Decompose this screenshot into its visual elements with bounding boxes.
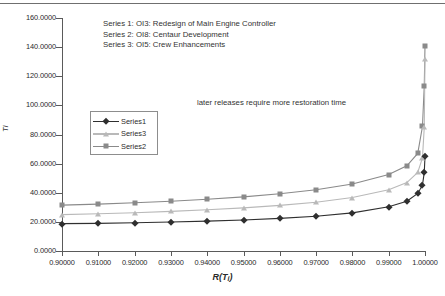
triangle-marker [103,131,109,136]
triangle-marker [386,187,392,192]
square-marker [277,191,282,196]
triangle-marker [422,56,428,61]
triangle-marker [349,195,355,200]
top-divider-rule [0,3,445,4]
x-tick-label: 0.92000 [122,258,147,267]
triangle-marker [404,180,410,185]
square-marker [205,197,210,202]
caption-line-3: Series 3: OI5: Crew Enhancements [103,40,276,51]
x-tick-label: 0.98000 [340,258,365,267]
x-tick [135,251,136,256]
y-tick-label: 0.0000 [0,246,56,255]
y-tick-label: 120.0000 [0,71,56,80]
x-tick-label: 0.97000 [303,258,328,267]
x-tick-label: 1.00000 [412,258,437,267]
x-tick [280,251,281,256]
x-tick-label: 0.94000 [195,258,220,267]
triangle-marker [415,170,421,175]
triangle-marker [241,205,247,210]
y-tick-label: 40.0000 [0,188,56,197]
x-tick-label: 0.99000 [376,258,401,267]
x-tick-label: 0.96000 [267,258,292,267]
legend-line-swatch [93,117,119,125]
legend-label: Series3 [121,129,146,138]
legend-item-series3[interactable]: Series3 [93,128,155,141]
square-marker [168,199,173,204]
x-axis-title-main: R(T [213,272,228,282]
x-tick [207,251,208,256]
x-tick [389,251,390,256]
x-tick [244,251,245,256]
chart-note-annotation: later releases require more restoration … [197,98,346,107]
x-tick [316,251,317,256]
triangle-marker [204,207,210,212]
legend-item-series2[interactable]: Series2 [93,140,155,153]
square-marker [314,187,319,192]
y-tick-label: 140.0000 [0,42,56,51]
x-tick-label: 0.90000 [49,258,74,267]
x-axis-title: R(Ti) [0,272,445,282]
x-axis-title-close: ) [229,272,232,282]
square-marker [422,83,427,88]
x-tick [98,251,99,256]
triangle-marker [421,125,427,130]
series-caption-block: Series 1: OI3: Redesign of Main Engine C… [103,19,276,51]
legend-item-series1[interactable]: Series1 [93,115,155,128]
triangle-marker [313,200,319,205]
legend-line-swatch [93,130,119,138]
diamond-marker [103,118,109,124]
square-marker [423,43,428,48]
y-tick-label: 20.0000 [0,217,56,226]
square-marker [404,163,409,168]
square-marker [350,182,355,187]
x-tick-label: 0.91000 [86,258,111,267]
legend-label: Series2 [121,142,146,151]
legend-line-swatch [93,142,119,150]
triangle-marker [277,203,283,208]
legend-label: Series1 [121,117,146,126]
square-marker [104,144,109,149]
y-tick-label: 160.0000 [0,13,56,22]
x-tick-label: 0.93000 [158,258,183,267]
chart-figure: Ti 0.000020.000040.000060.000080.0000100… [0,0,445,296]
caption-line-2: Series 2: OI8: Centaur Development [103,30,276,41]
y-tick-label: 100.0000 [0,100,56,109]
square-marker [241,194,246,199]
x-tick [425,251,426,256]
x-tick-label: 0.95000 [231,258,256,267]
triangle-marker [95,211,101,216]
triangle-marker [59,212,65,217]
x-tick [62,251,63,256]
chart-legend: Series1Series3Series2 [90,111,158,155]
y-tick-label: 60.0000 [0,159,56,168]
square-marker [60,203,65,208]
square-marker [96,202,101,207]
triangle-marker [132,210,138,215]
triangle-marker [168,209,174,214]
caption-line-1: Series 1: OI3: Redesign of Main Engine C… [103,19,276,30]
x-tick [352,251,353,256]
y-tick-label: 80.0000 [0,130,56,139]
x-tick [171,251,172,256]
square-marker [386,172,391,177]
square-marker [132,200,137,205]
